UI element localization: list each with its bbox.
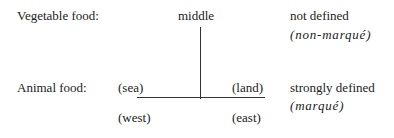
- strongly-defined-label: strongly defined: [290, 81, 375, 94]
- sea-label: (sea): [118, 81, 143, 94]
- marque-term: (marqué): [290, 99, 344, 112]
- middle-label: middle: [178, 9, 214, 22]
- horizontal-axis-line: [137, 97, 265, 98]
- vegetable-food-label: Vegetable food:: [17, 9, 99, 22]
- land-label: (land): [232, 81, 263, 94]
- east-label: (east): [232, 111, 261, 124]
- not-defined-label: not defined: [290, 9, 349, 22]
- non-marque-term: (non-marqué): [290, 28, 371, 41]
- animal-food-label: Animal food:: [17, 81, 87, 94]
- vertical-axis-line: [200, 27, 201, 99]
- west-label: (west): [118, 111, 151, 124]
